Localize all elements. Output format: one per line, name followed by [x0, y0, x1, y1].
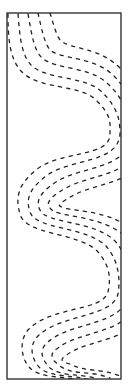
serpentine-diagram [0, 0, 132, 387]
dashed-curve-1 [8, 14, 110, 380]
dashed-curve-5 [50, 13, 132, 376]
dashed-curves [8, 13, 132, 380]
dashed-curve-4 [38, 13, 132, 378]
frame-rectangle [7, 13, 121, 379]
dashed-curve-3 [28, 14, 130, 380]
